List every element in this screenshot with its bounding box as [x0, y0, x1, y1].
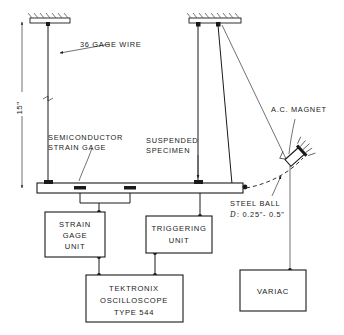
box-oscilloscope[interactable]: TEKTRONIX OSCILLOSCOPE TYPE 544: [86, 275, 183, 322]
leader-strain-gage: [79, 148, 92, 181]
strain-gage-chip-1: [74, 186, 86, 190]
figure-canvas: 15": [0, 0, 344, 335]
label-semiconductor-line-2: STRAIN GAGE: [48, 143, 106, 152]
oscilloscope-line-3: TYPE 544: [114, 308, 154, 317]
ceiling-support-right: [187, 13, 241, 27]
impact-point: [243, 185, 248, 190]
wiring-scope-right: [153, 251, 157, 277]
label-steel-ball-diameter-value: : 0.25"- 0.5": [237, 210, 285, 219]
dimension-15in: 15": [12, 22, 32, 188]
wiring-trigger: [198, 193, 202, 218]
oscilloscope-line-1: TEKTRONIX: [109, 284, 159, 293]
box-triggering-unit[interactable]: TRIGGERING UNIT: [146, 216, 212, 253]
strain-gage-unit-line-3: UNIT: [65, 242, 86, 251]
leader-ac-magnet: [289, 119, 295, 154]
hatching-left: [28, 13, 68, 18]
variac-line-1: VARIAC: [257, 287, 289, 296]
wiring-strain-gage: [80, 193, 130, 214]
beam-pad-right: [194, 180, 203, 184]
label-36-gage-wire: 36 GAGE WIRE: [80, 40, 141, 49]
suspended-specimen-beam: [37, 180, 247, 193]
label-steel-ball: STEEL BALL: [230, 199, 280, 208]
wire-break-symbol: [43, 96, 53, 101]
label-semiconductor-line-1: SEMICONDUCTOR: [48, 133, 123, 142]
label-suspended-line-1: SUSPENDED: [146, 136, 198, 145]
box-strain-gage-unit[interactable]: STRAIN GAGE UNIT: [45, 212, 105, 257]
apparatus-diagram: 15": [0, 0, 344, 335]
triggering-unit-line-1: TRIGGERING: [151, 224, 206, 233]
hatching-right: [187, 13, 239, 18]
ceiling-support-left: [28, 13, 70, 26]
label-steel-ball-diameter-symbol: D: [229, 210, 236, 219]
box-variac[interactable]: VARIAC: [240, 270, 306, 311]
strain-gage-unit-line-2: GAGE: [63, 231, 88, 240]
triggering-unit-line-2: UNIT: [169, 236, 190, 245]
label-suspended-line-2: SPECIMEN: [146, 146, 190, 155]
pendulum-cord: [222, 25, 288, 163]
beam-pad-left: [44, 180, 53, 184]
strain-gage-unit-line-1: STRAIN: [59, 220, 91, 229]
strain-gage-chip-2: [124, 186, 136, 190]
wiring-scope-left: [97, 255, 101, 277]
dimension-label: 15": [15, 102, 24, 115]
oscilloscope-line-2: OSCILLOSCOPE: [100, 296, 168, 305]
suspension-wire-angled: [218, 25, 232, 184]
label-ac-magnet: A.C. MAGNET: [271, 105, 327, 114]
